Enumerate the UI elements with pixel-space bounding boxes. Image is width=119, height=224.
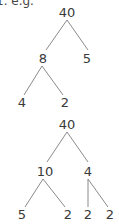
tree-node-b: 4: [84, 164, 92, 179]
factor-tree-2: 401045222: [0, 112, 119, 224]
tree-node-a: 8: [39, 51, 47, 66]
tree-node-d: 2: [64, 207, 72, 222]
tree-branch: [88, 179, 108, 207]
tree-node-b: 5: [83, 51, 91, 66]
tree-node-root: 40: [59, 117, 76, 132]
factor-tree-1: 408542: [0, 0, 119, 112]
tree-branch: [47, 132, 67, 162]
tree-node-c: 4: [18, 95, 26, 110]
tree-branch: [25, 179, 43, 207]
tree-branch: [43, 179, 65, 207]
tree-branch: [42, 66, 63, 95]
tree-branch: [67, 132, 88, 162]
tree-node-root: 40: [59, 5, 76, 20]
tree-branch: [67, 20, 88, 50]
tree-branch: [24, 66, 42, 95]
tree-node-a: 10: [37, 164, 54, 179]
tree-node-f: 2: [106, 207, 114, 222]
tree-node-c: 5: [18, 207, 26, 222]
tree-branch: [46, 20, 67, 50]
tree-node-e: 2: [84, 207, 92, 222]
tree-node-d: 2: [61, 95, 69, 110]
